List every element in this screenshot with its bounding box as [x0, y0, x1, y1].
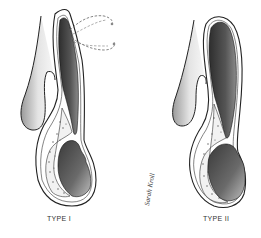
type-2-lobe: [173, 20, 207, 126]
type-1-label: TYPE I: [47, 215, 71, 222]
type-1-dashed-outline: [70, 16, 112, 30]
anatomical-illustration: TYPE I TYPE II Sarah Kroll: [0, 0, 261, 238]
type-1-panel: [21, 10, 115, 207]
type-1-lobe: [21, 16, 55, 130]
type-2-panel: [173, 17, 246, 208]
illustration-svg: [0, 0, 261, 238]
type-2-label: TYPE II: [203, 215, 229, 222]
